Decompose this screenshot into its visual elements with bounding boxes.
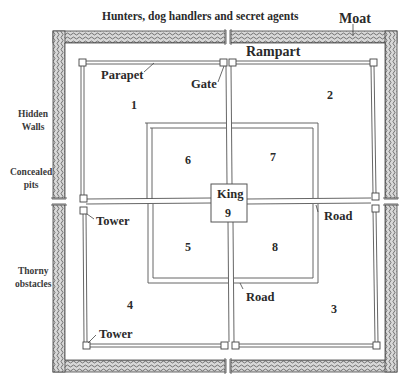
diagram-title: Hunters, dog handlers and secret agents	[102, 11, 299, 23]
zone-3: 3	[331, 303, 337, 315]
zone-8: 8	[272, 241, 278, 253]
rampart-label: Rampart	[246, 45, 300, 59]
zone-4: 4	[127, 299, 133, 311]
moat-label: Moat	[339, 12, 371, 26]
concealed-pits-label: Concealed pits	[10, 166, 52, 192]
gate-label: Gate	[191, 78, 217, 91]
hidden-walls-label: Hidden Walls	[18, 108, 48, 134]
zone-5: 5	[185, 241, 191, 253]
zone-1: 1	[131, 99, 137, 111]
zone-7: 7	[270, 151, 276, 163]
tower-label-lower: Tower	[99, 328, 133, 341]
thorny-obstacles-label: Thorny obstacles	[15, 265, 51, 291]
king-label: King	[217, 188, 243, 201]
tower-label-upper: Tower	[96, 215, 130, 228]
parapet-label: Parapet	[101, 69, 143, 82]
road-label-lower: Road	[246, 291, 274, 304]
road-label-right: Road	[324, 210, 352, 223]
zone-2: 2	[327, 89, 333, 101]
fort-plan-diagram	[0, 0, 411, 390]
zone-6: 6	[185, 154, 191, 166]
zone-9-king: 9	[225, 207, 231, 219]
